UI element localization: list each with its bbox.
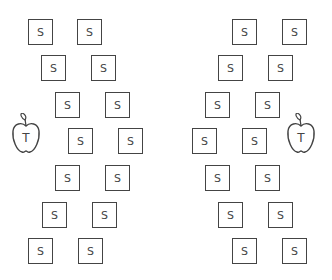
left-seat: S	[91, 55, 116, 81]
left-seat: S	[42, 202, 67, 228]
left-seat: S	[105, 165, 130, 191]
left-seat: S	[118, 128, 143, 154]
right-seat: S	[192, 128, 217, 154]
right-seat: S	[268, 202, 293, 228]
left-seat: S	[92, 202, 117, 228]
right-seat: S	[255, 165, 280, 191]
right-seat: S	[282, 238, 307, 264]
right-seat: S	[205, 165, 230, 191]
teacher-label: T	[10, 131, 42, 145]
left-seat: S	[28, 19, 53, 45]
right-seat: S	[282, 19, 307, 45]
right-seat: S	[255, 92, 280, 118]
left-teacher-apple: T	[10, 113, 42, 155]
right-seat: S	[218, 202, 243, 228]
left-seat: S	[78, 238, 103, 264]
right-teacher-apple: T	[285, 113, 317, 155]
left-seat: S	[105, 92, 130, 118]
left-seat: S	[68, 128, 93, 154]
left-seat: S	[28, 238, 53, 264]
right-seat: S	[232, 238, 257, 264]
right-seat: S	[218, 55, 243, 81]
right-seat: S	[268, 55, 293, 81]
right-seat: S	[205, 92, 230, 118]
left-seat: S	[55, 165, 80, 191]
left-seat: S	[41, 55, 66, 81]
teacher-label: T	[285, 131, 317, 145]
left-seat: S	[77, 19, 102, 45]
right-seat: S	[242, 128, 267, 154]
right-seat: S	[232, 19, 257, 45]
left-seat: S	[55, 92, 80, 118]
